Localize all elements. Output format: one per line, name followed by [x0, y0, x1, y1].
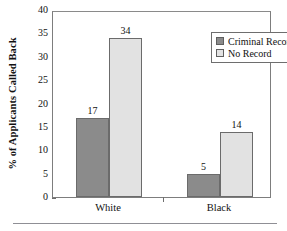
legend-label-no-record: No Record — [228, 48, 272, 59]
bar-value-label: 14 — [220, 119, 253, 130]
plot-area: 1734514 Criminal Record No Record — [52, 11, 271, 198]
legend-swatch-icon-criminal-record — [216, 37, 224, 45]
legend-swatch-icon-no-record — [216, 49, 224, 57]
bar-black-criminal-record — [187, 174, 220, 197]
bar-white-criminal-record — [76, 118, 109, 197]
bar-value-label: 34 — [109, 25, 142, 36]
bottom-divider — [13, 223, 277, 224]
legend-label-criminal-record: Criminal Record — [228, 36, 287, 47]
x-axis-label-white: White — [68, 202, 148, 213]
y-axis-tick-label: 10 — [38, 144, 48, 155]
y-axis-tick-label: 30 — [38, 51, 48, 62]
bar-black-no-record — [220, 132, 253, 197]
bar-value-label: 17 — [76, 105, 109, 116]
chart-legend: Criminal Record No Record — [211, 32, 287, 63]
x-axis-tick-mark — [163, 197, 164, 202]
bar-chart-figure: % of Applicants Called Back 051015202530… — [0, 0, 287, 231]
y-axis-tick-mark — [52, 198, 56, 199]
y-axis-title: % of Applicants Called Back — [7, 14, 18, 194]
legend-item-criminal-record: Criminal Record — [216, 35, 287, 47]
x-axis-label-black: Black — [179, 202, 259, 213]
legend-item-no-record: No Record — [216, 47, 287, 59]
y-axis-tick-label: 0 — [43, 191, 48, 202]
y-axis-tick-label: 35 — [38, 27, 48, 38]
y-axis-tick-label: 25 — [38, 74, 48, 85]
y-axis-tick-label: 5 — [43, 168, 48, 179]
y-axis-tick-label: 15 — [38, 121, 48, 132]
bar-white-no-record — [109, 38, 142, 197]
bar-value-label: 5 — [187, 161, 220, 172]
y-axis-tick-label: 40 — [38, 4, 48, 15]
y-axis-tick-label: 20 — [38, 98, 48, 109]
